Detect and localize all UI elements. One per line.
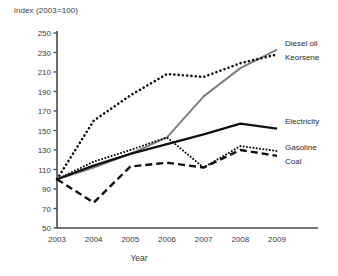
- y-tick-label: 90: [42, 185, 51, 194]
- series-labels: Diesel oilKeorseneElectricityGasolineCoa…: [285, 39, 320, 166]
- x-tick-label: 2008: [231, 235, 249, 244]
- series-label-coal: Coal: [285, 157, 302, 166]
- y-tick-label: 190: [38, 88, 52, 97]
- axis-lines: [57, 31, 318, 228]
- y-tick-label: 210: [38, 68, 52, 77]
- x-tick-label: 2006: [158, 235, 176, 244]
- series-line-coal: [57, 150, 277, 203]
- series-label-gasoline: Gasoline: [285, 143, 317, 152]
- x-tick-label: 2004: [85, 235, 103, 244]
- x-axis-title: Year: [130, 253, 147, 263]
- y-tick-label: 130: [38, 146, 52, 155]
- line-chart: index (2003=100) 25023021019017015013011…: [0, 0, 338, 276]
- x-tick-label: 2005: [121, 235, 139, 244]
- y-tick-label: 70: [42, 205, 51, 214]
- series-line-diesel-oil: [57, 50, 277, 180]
- y-tick-label: 50: [42, 224, 51, 233]
- x-tick-label: 2003: [48, 235, 66, 244]
- x-axis-ticks: 2003200420052006200720082009: [48, 235, 286, 244]
- y-tick-label: 150: [38, 127, 52, 136]
- x-axis-title-wrap: Year: [0, 253, 338, 263]
- y-tick-label: 110: [38, 166, 51, 175]
- y-axis-ticks: 250230210190170150130110907050: [38, 29, 57, 233]
- x-tick-label: 2007: [195, 235, 213, 244]
- plot-area: 2502302101901701501301109070502003200420…: [0, 0, 338, 276]
- y-tick-label: 250: [38, 29, 52, 38]
- x-tick-label: 2009: [268, 235, 286, 244]
- series-line-keorsene: [57, 54, 277, 179]
- series-label-electricity: Electricity: [285, 117, 319, 126]
- series-group: [57, 50, 277, 203]
- series-label-diesel-oil: Diesel oil: [285, 39, 318, 48]
- y-tick-label: 230: [38, 49, 52, 58]
- series-label-keorsene: Keorsene: [285, 53, 320, 62]
- y-tick-label: 170: [38, 107, 52, 116]
